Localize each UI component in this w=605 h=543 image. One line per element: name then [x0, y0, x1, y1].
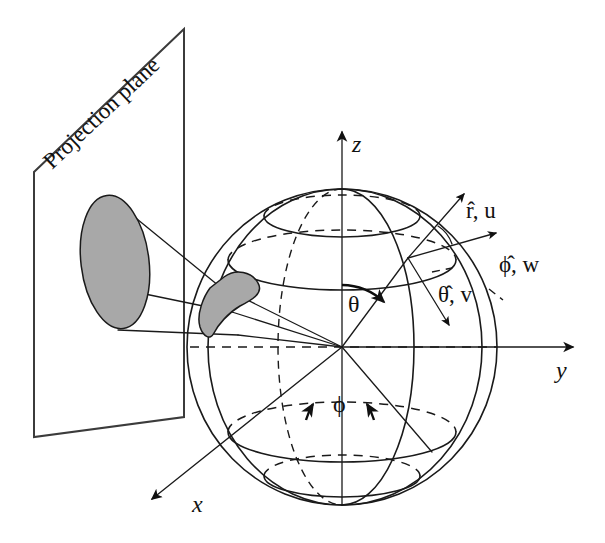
- unit-vector-r-label: r̂, u: [466, 198, 496, 223]
- projected-ellipse: [73, 191, 157, 332]
- phi-angle-label: ϕ: [333, 391, 346, 417]
- unit-vector-theta-label: θ̂, v: [438, 282, 473, 307]
- theta-angle-label: θ: [348, 291, 360, 317]
- projection-plane-label: Projection plane: [38, 52, 164, 173]
- axis-x: [152, 347, 342, 499]
- projection-plane-label-group: Projection plane: [38, 52, 164, 173]
- diagram-canvas: Projection plane: [0, 0, 605, 543]
- phi-leg-line: [342, 347, 432, 452]
- unit-vector-phi-label: ϕ̂, w: [499, 252, 540, 277]
- unit-vector-r-hat: [408, 194, 464, 258]
- sphere-surface-patch: [199, 272, 260, 337]
- axis-x-label: x: [191, 491, 203, 517]
- axis-y-label: y: [554, 357, 567, 383]
- spherical-coordinates-figure: Projection plane: [0, 0, 605, 543]
- axis-z-label: z: [351, 131, 362, 157]
